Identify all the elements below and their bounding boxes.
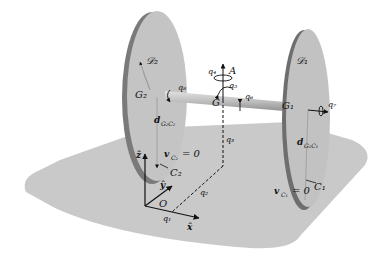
label-q1: q₁ [163, 214, 171, 223]
label-q6: q₆ [245, 92, 254, 101]
label-vc1: v [274, 186, 280, 196]
label-disk2: 𝒟₂ [146, 55, 158, 66]
label-c2: C₂ [170, 167, 182, 178]
label-y-axis: ŷ [159, 180, 166, 190]
label-x-axis: x̂ [186, 222, 193, 232]
label-q5: q₅ [229, 81, 238, 90]
label-origin: O [159, 198, 167, 209]
label-vc2-sub: C₂ [171, 154, 179, 161]
label-vc2-eq: = 0 [182, 148, 201, 159]
label-vc2: v [164, 149, 170, 159]
label-c1: C₁ [314, 181, 326, 192]
label-vc1-sub: C₁ [281, 191, 288, 198]
diagram-canvas: 𝒟₂ 𝒟₁ G₂ G₁ G A q₄ q₅ q₆ q₇ q₈ q₃ q₂ q₁ … [0, 0, 388, 255]
label-d2: d [154, 115, 161, 125]
label-g1: G₁ [282, 100, 294, 111]
label-q8: q₈ [178, 83, 187, 92]
label-vc1-eq: = 0 [292, 185, 311, 196]
label-d1-sub: G₁C₁ [304, 142, 318, 149]
label-d2-sub: G₂C₂ [161, 120, 176, 127]
label-q2: q₂ [200, 188, 208, 197]
label-q3: q₃ [226, 135, 234, 144]
label-axis-a: A [228, 65, 236, 76]
label-disk1: 𝒟₁ [296, 55, 308, 66]
label-z-axis: ẑ [135, 150, 142, 160]
label-g: G [212, 97, 220, 108]
label-q4: q₄ [208, 67, 216, 76]
label-q7: q₇ [328, 100, 337, 109]
label-d1: d [297, 137, 304, 147]
label-g2: G₂ [135, 89, 147, 100]
